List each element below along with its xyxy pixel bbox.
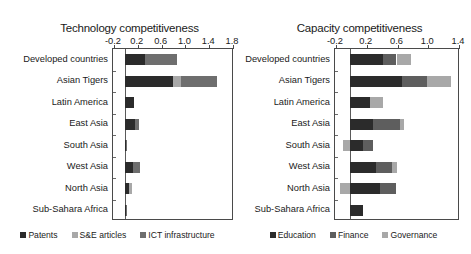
y-minor-tick [335,114,338,115]
bar-segment [125,119,135,130]
legend-label: S&E articles [80,230,127,240]
bar-segment [363,140,372,151]
bar-row [335,54,458,65]
y-minor-tick [113,92,116,93]
y-minor-tick [113,114,116,115]
bar-segment [350,140,363,151]
bar-segment [376,162,392,173]
y-category-label: Asian Tigers [279,75,330,85]
legend-item[interactable]: Finance [330,230,369,240]
bar-segment [402,76,427,87]
x-tick-mark [459,45,460,49]
chart-panel-capacity: Capacity competitiveness -0.20.20.61.01.… [236,0,471,254]
bar-segment [383,54,397,65]
bar-segment [135,119,139,130]
bar-segment [427,76,451,87]
y-category-label: West Asia [289,161,330,171]
bar-row [113,140,232,151]
legend-swatch-icon [72,232,78,238]
x-tick-label: 1.4 [452,36,465,46]
bar-segment [370,97,382,108]
y-category-label: South Asia [286,140,330,150]
legend-label: Finance [338,230,369,240]
bar-segment [392,162,397,173]
plot-area-capacity [334,48,459,220]
bar-row [335,162,458,173]
bar-row [113,162,232,173]
bar-segment [173,76,181,87]
y-category-label: Developed countries [245,54,330,64]
bar-segment [350,205,362,216]
bar-row [335,183,458,194]
legend-swatch-icon [330,232,336,238]
legend-item[interactable]: Governance [382,230,437,240]
legend-swatch-icon [270,232,276,238]
y-minor-tick [335,92,338,93]
y-category-label: Latin America [274,97,330,107]
legend-item[interactable]: S&E articles [72,230,127,240]
y-minor-tick [335,200,338,201]
y-category-label: North Asia [287,183,330,193]
y-category-label: South Asia [64,140,108,150]
y-minor-tick [113,200,116,201]
x-tick-label: 0.6 [390,36,403,46]
x-tick-mark [185,45,186,49]
y-category-label: Latin America [52,97,108,107]
y-minor-tick [113,178,116,179]
x-tick-label: 1.0 [421,36,434,46]
y-minor-tick [335,135,338,136]
y-minor-tick [335,71,338,72]
y-category-label: East Asia [69,118,108,128]
bar-row [113,119,232,130]
bar-row [113,97,232,108]
y-minor-tick [113,157,116,158]
legend-swatch-icon [140,232,146,238]
x-tick-label: 1.0 [178,36,191,46]
legend-label: Patents [28,230,57,240]
x-tick-mark [336,45,337,49]
y-category-label: East Asia [291,118,330,128]
x-tick-mark [367,45,368,49]
x-tick-label: 0.2 [359,36,372,46]
bar-segment [380,183,395,194]
bar-segment [350,97,370,108]
x-axis-tick-labels-technology: -0.20.20.61.01.41.8 [112,36,233,48]
legend-label: ICT infrastructure [148,230,214,240]
x-tick-mark [209,45,210,49]
bar-row [335,140,458,151]
chart-panel-technology: Technology competitiveness -0.20.20.61.0… [0,0,235,254]
legend-capacity: EducationFinanceGovernance [236,230,471,240]
x-tick-label: 0.6 [154,36,167,46]
bar-segment [350,119,373,130]
bar-row [335,97,458,108]
y-category-label: Sub-Sahara Africa [255,204,330,214]
legend-swatch-icon [382,232,388,238]
bar-row [335,119,458,130]
legend-swatch-icon [20,232,26,238]
bar-segment [129,183,132,194]
bar-row [113,183,232,194]
y-minor-tick [335,178,338,179]
x-tick-mark [398,45,399,49]
y-minor-tick [113,71,116,72]
bar-segment [350,183,380,194]
y-category-label: Asian Tigers [57,75,108,85]
legend-item[interactable]: Education [270,230,316,240]
legend-item[interactable]: Patents [20,230,57,240]
legend-item[interactable]: ICT infrastructure [140,230,214,240]
x-tick-label: 1.4 [202,36,215,46]
y-axis-category-labels-technology: Developed countriesAsian TigersLatin Ame… [0,0,108,254]
y-category-label: Developed countries [23,54,108,64]
y-minor-tick [113,135,116,136]
x-axis-tick-labels-capacity: -0.20.20.61.01.4 [334,36,459,48]
bar-segment [400,119,405,130]
legend-label: Governance [390,230,437,240]
y-axis-category-labels-capacity: Developed countriesAsian TigersLatin Ame… [236,0,330,254]
bar-row [113,205,232,216]
legend-technology: PatentsS&E articlesICT infrastructure [0,230,235,240]
bar-segment [340,183,351,194]
bar-segment [125,162,133,173]
x-tick-mark [428,45,429,49]
plot-area-technology [112,48,233,220]
bar-segment [125,54,145,65]
